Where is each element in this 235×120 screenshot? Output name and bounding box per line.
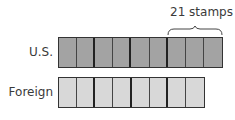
stamp-unit: [113, 38, 131, 67]
stamp-unit: [77, 78, 95, 107]
stamp-unit: [132, 78, 150, 107]
stamp-unit: [95, 38, 113, 67]
row-label-us: U.S.: [29, 45, 53, 59]
foreign-stamp-bar: [58, 77, 205, 108]
stamp-unit: [59, 78, 77, 107]
brace-icon: [166, 26, 226, 36]
us-stamp-bar: [58, 37, 223, 68]
stamp-unit: [77, 38, 95, 67]
row-label-foreign: Foreign: [9, 85, 53, 99]
stamp-unit: [168, 78, 186, 107]
stamp-unit: [186, 38, 204, 67]
annotation-label: 21 stamps: [170, 5, 233, 19]
stamp-unit: [131, 38, 149, 67]
stamp-unit: [150, 78, 168, 107]
stamp-unit: [186, 78, 204, 107]
stamp-unit: [150, 38, 168, 67]
stamp-unit: [59, 38, 77, 67]
stamp-unit: [204, 38, 222, 67]
stamp-unit: [168, 38, 186, 67]
stamp-unit: [95, 78, 113, 107]
stamp-unit: [113, 78, 131, 107]
